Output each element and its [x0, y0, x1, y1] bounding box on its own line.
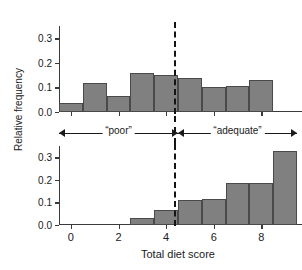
bar	[59, 103, 83, 112]
y-tick-label: 0.1	[38, 197, 52, 208]
bar	[178, 200, 202, 225]
y-tick	[55, 87, 59, 88]
bar	[130, 73, 154, 112]
region-annotations: “poor”“adequate”	[0, 124, 302, 142]
y-tick-label: 0.2	[38, 57, 52, 68]
chart-figure: Relative frequency 0.00.10.20.3 0.00.10.…	[0, 0, 302, 270]
arrow-head-right-icon	[291, 129, 297, 137]
bar	[130, 218, 154, 225]
y-tick-label: 0.2	[38, 174, 52, 185]
divider-line-bottom	[174, 144, 176, 226]
y-tick	[55, 157, 59, 158]
x-tick	[71, 112, 72, 116]
bar	[83, 83, 107, 112]
y-tick-label: 0.0	[38, 107, 52, 118]
bar	[226, 183, 250, 225]
x-tick-label: 0	[68, 231, 74, 243]
y-tick	[55, 112, 59, 113]
x-tick-label: 6	[211, 231, 217, 243]
x-tick	[214, 225, 215, 229]
y-tick	[55, 225, 59, 226]
x-tick	[261, 112, 262, 116]
y-tick	[55, 180, 59, 181]
bar	[107, 96, 131, 112]
annotation-label: “poor”	[102, 125, 135, 136]
y-tick-label: 0.3	[38, 33, 52, 44]
x-tick	[71, 225, 72, 229]
y-tick	[55, 202, 59, 203]
top-panel-y-axis	[59, 26, 60, 112]
bar	[202, 87, 226, 112]
x-axis-label: Total diet score	[59, 248, 297, 260]
y-tick-label: 0.1	[38, 82, 52, 93]
x-tick	[119, 225, 120, 229]
x-tick	[261, 225, 262, 229]
x-tick	[166, 225, 167, 229]
divider-line-top	[174, 22, 176, 114]
annotation-label: “adequate”	[210, 125, 264, 136]
x-tick-label: 2	[115, 231, 121, 243]
bottom-panel: 0.00.10.20.302468	[59, 146, 297, 225]
x-tick	[166, 112, 167, 116]
bar	[226, 86, 250, 112]
arrow-head-left-icon	[59, 129, 65, 137]
bar	[249, 183, 273, 225]
bar	[178, 78, 202, 112]
x-tick-label: 8	[258, 231, 264, 243]
top-panel: 0.00.10.20.3	[59, 26, 297, 112]
bottom-panel-y-axis	[59, 146, 60, 225]
arrow-head-left-icon	[178, 129, 184, 137]
x-tick	[119, 112, 120, 116]
y-tick-label: 0.0	[38, 220, 52, 231]
y-tick-label: 0.3	[38, 152, 52, 163]
bar	[249, 80, 273, 112]
bar	[202, 199, 226, 225]
y-axis-label: Relative frequency	[13, 40, 24, 180]
y-tick	[55, 63, 59, 64]
x-tick-label: 4	[163, 231, 169, 243]
bar	[273, 151, 297, 225]
y-tick	[55, 38, 59, 39]
x-tick	[214, 112, 215, 116]
